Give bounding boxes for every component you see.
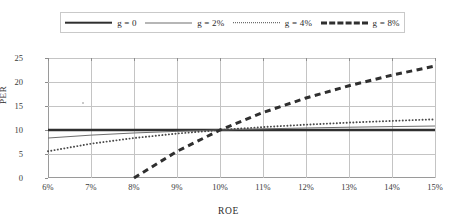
x-tick-label: 12% [286, 182, 326, 192]
legend-item-g2: g = 2% [145, 18, 224, 28]
x-tick-mark [435, 58, 436, 61]
x-tick-mark [306, 58, 307, 61]
legend-swatch-dashed-icon [321, 18, 368, 27]
y-tick-label: 10 [1, 125, 23, 135]
x-tick-label: 6% [28, 182, 68, 192]
legend-item-g8: g = 8% [321, 18, 400, 28]
y-tick-label: 15 [1, 101, 23, 111]
y-tick-mark [45, 82, 48, 83]
y-tick-label: 20 [1, 77, 23, 87]
curve-layer [48, 58, 435, 178]
plot-area: 0510152025 6%7%8%9%10%11%12%13%14%15% [48, 58, 435, 178]
series-line-g-4- [48, 119, 435, 151]
x-tick-mark [392, 58, 393, 61]
x-tick-label: 11% [243, 182, 283, 192]
legend-swatch-solid-thick-icon [65, 18, 112, 27]
x-tick-label: 9% [157, 182, 197, 192]
x-tick-mark [220, 58, 221, 61]
legend-swatch-solid-thin-icon [145, 18, 192, 27]
x-tick-mark [134, 58, 135, 61]
x-tick-label: 7% [71, 182, 111, 192]
gridline-vertical [435, 58, 436, 178]
y-tick-mark [45, 178, 48, 179]
legend-item-g0: g = 0 [65, 18, 137, 28]
legend-label-g0: g = 0 [117, 18, 137, 28]
chart-figure: g = 0 g = 2% g = 4% g = 8% PER 051015202… [0, 0, 457, 224]
x-axis-label: ROE [0, 206, 457, 216]
x-tick-label: 8% [114, 182, 154, 192]
legend-label-g2: g = 2% [197, 18, 224, 28]
x-tick-mark [91, 58, 92, 61]
y-tick-label: 25 [1, 53, 23, 63]
x-tick-label: 10% [200, 182, 240, 192]
series-line-g-8- [134, 66, 435, 178]
x-tick-mark [349, 58, 350, 61]
x-tick-label: 14% [372, 182, 412, 192]
x-tick-mark [263, 58, 264, 61]
legend-swatch-dotted-icon [233, 18, 280, 27]
y-tick-mark [45, 130, 48, 131]
legend-label-g8: g = 8% [373, 18, 400, 28]
y-tick-label: 5 [1, 149, 23, 159]
y-tick-mark [45, 106, 48, 107]
x-tick-label: 13% [329, 182, 369, 192]
legend-item-g4: g = 4% [233, 18, 312, 28]
legend-label-g4: g = 4% [285, 18, 312, 28]
x-tick-mark [177, 58, 178, 61]
chart-legend: g = 0 g = 2% g = 4% g = 8% [60, 12, 405, 33]
y-tick-label: 0 [1, 173, 23, 183]
x-tick-mark [48, 58, 49, 61]
y-tick-mark [45, 154, 48, 155]
x-tick-label: 15% [415, 182, 455, 192]
